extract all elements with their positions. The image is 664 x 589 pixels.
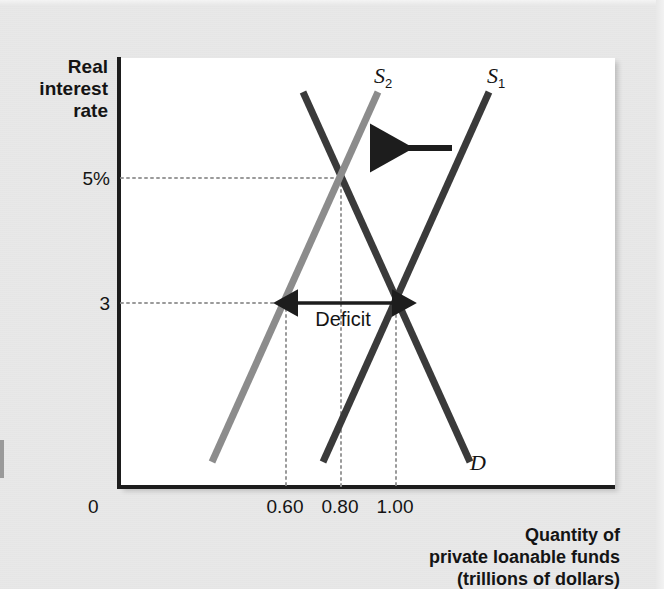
curve-label-s2-text: S: [374, 63, 385, 88]
y-tick-label-3: 3: [38, 293, 110, 315]
page-right-edge: [656, 0, 664, 589]
origin-label: 0: [88, 496, 99, 518]
x-axis-title-line-2: private loanable funds: [429, 546, 620, 568]
y-tick-label-5pct: 5%: [38, 168, 110, 190]
page-left-margin-mark: [0, 440, 4, 478]
x-axis-line: [117, 485, 615, 489]
y-axis-title: Real interest rate: [0, 56, 108, 122]
deficit-annotation-label: Deficit: [288, 308, 398, 331]
page-top-edge: [0, 0, 664, 5]
x-tick-label-100: 1.00: [360, 496, 430, 518]
y-axis-title-line-1: Real: [0, 56, 108, 78]
plot-area: [120, 58, 615, 487]
figure-container: Real interest rate 5% 3 0 0.60 0.80 1.00…: [0, 0, 664, 589]
curve-label-s2: S2: [374, 63, 392, 91]
curve-label-s1-sub: 1: [498, 76, 505, 91]
curve-label-d: D: [470, 450, 486, 476]
y-axis-line: [117, 57, 121, 489]
x-axis-title-line-1: Quantity of: [429, 524, 620, 546]
x-axis-title-line-3: (trillions of dollars): [429, 568, 620, 589]
y-axis-title-line-3: rate: [0, 100, 108, 122]
curve-label-s2-sub: 2: [385, 76, 392, 91]
y-axis-title-line-2: interest: [0, 78, 108, 100]
x-axis-title: Quantity of private loanable funds (tril…: [429, 524, 620, 589]
curve-label-s1: S1: [487, 63, 505, 91]
curve-label-s1-text: S: [487, 63, 498, 88]
